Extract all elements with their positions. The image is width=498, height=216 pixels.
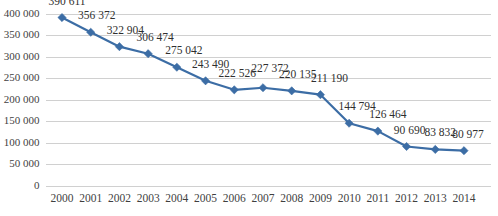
y-axis-tick-label: 300 000 — [4, 50, 40, 62]
y-axis-tick-label: 350 000 — [4, 28, 40, 40]
y-axis-tick-label: 400 000 — [4, 7, 40, 19]
chart-canvas: 050 000100 000150 000200 000250 000300 0… — [0, 0, 498, 216]
x-axis-tick-labels: 2000200120022003200420052006200720082009… — [51, 192, 476, 204]
x-axis-tick-label: 2005 — [194, 192, 217, 204]
data-point-marker — [201, 77, 209, 85]
data-point-label: 211 190 — [311, 72, 348, 84]
y-axis-tick-label: 50 000 — [9, 157, 40, 169]
x-axis-tick-label: 2007 — [252, 192, 275, 204]
data-point-label: 306 474 — [136, 31, 174, 43]
x-axis-tick-label: 2009 — [309, 192, 332, 204]
data-point-label: 126 464 — [369, 108, 407, 120]
data-point-marker — [144, 50, 152, 58]
data-point-marker — [173, 63, 181, 71]
x-axis-tick-label: 2003 — [137, 192, 160, 204]
data-point-marker — [431, 145, 439, 153]
data-point-marker — [259, 84, 267, 92]
x-axis-tick-label: 2006 — [223, 192, 246, 204]
x-axis-tick-label: 2001 — [79, 192, 102, 204]
gridlines — [46, 15, 491, 187]
y-axis-tick-label: 0 — [34, 179, 40, 191]
y-axis-tick-label: 200 000 — [4, 93, 40, 105]
data-point-marker — [374, 127, 382, 135]
x-axis-tick-label: 2010 — [338, 192, 361, 204]
x-axis-tick-label: 2012 — [395, 192, 418, 204]
x-axis-tick-label: 2000 — [51, 192, 74, 204]
data-point-marker — [115, 43, 123, 51]
y-axis-tick-label: 250 000 — [4, 71, 40, 83]
x-axis-tick-label: 2011 — [367, 192, 390, 204]
data-point-label: 356 372 — [78, 9, 116, 21]
data-point-labels: 390 611356 372322 904306 474275 042243 4… — [49, 0, 485, 140]
data-point-label: 390 611 — [49, 0, 86, 7]
data-point-label: 275 042 — [165, 44, 203, 56]
data-point-label: 80 977 — [452, 128, 484, 140]
x-axis-tick-label: 2014 — [453, 192, 476, 204]
x-axis-tick-label: 2013 — [424, 192, 447, 204]
x-axis-tick-label: 2004 — [165, 192, 188, 204]
y-axis-tick-label: 150 000 — [4, 114, 40, 126]
data-point-marker — [288, 87, 296, 95]
y-axis-tick-label: 100 000 — [4, 136, 40, 148]
x-axis-tick-label: 2002 — [108, 192, 131, 204]
data-point-marker — [460, 147, 468, 155]
data-point-label: 90 690 — [394, 124, 426, 136]
y-axis-tick-labels: 050 000100 000150 000200 000250 000300 0… — [4, 7, 40, 191]
line-chart: 050 000100 000150 000200 000250 000300 0… — [0, 0, 498, 216]
x-axis-tick-label: 2008 — [280, 192, 303, 204]
data-point-marker — [230, 86, 238, 94]
